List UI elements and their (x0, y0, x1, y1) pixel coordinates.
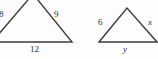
left-triangle-base-label: 12 (30, 45, 39, 54)
geometry-figure: 8 9 12 6 x y (0, 0, 158, 59)
left-triangle-left-side-label: 8 (0, 10, 4, 19)
left-triangle-right-side-label: 9 (54, 10, 59, 19)
right-triangle-right-side-label: x (148, 18, 152, 27)
right-triangle-left-side-label: 6 (98, 18, 103, 27)
right-triangle-base-label: y (123, 45, 127, 54)
left-triangle-shape (0, 0, 72, 42)
triangles-drawing (0, 0, 158, 59)
